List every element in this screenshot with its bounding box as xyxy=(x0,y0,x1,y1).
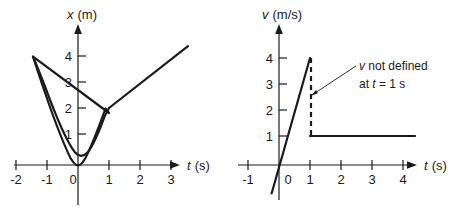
x-tick-label: 2 xyxy=(337,172,344,187)
x-axis-unit: (s) xyxy=(432,158,447,173)
annotation-leader xyxy=(311,66,357,96)
x-tick-label: -1 xyxy=(242,172,254,187)
position-x-tick-labels: -2 -1 0 1 2 3 xyxy=(10,172,174,187)
position-x-axis-label: t(s) xyxy=(187,158,210,173)
x-tick-label-origin: 0 xyxy=(69,172,76,187)
velocity-x-axis-label: t(s) xyxy=(424,158,447,173)
velocity-y-tick-labels: 1 2 3 4 xyxy=(266,51,273,144)
x-tick-label: 1 xyxy=(105,172,112,187)
x-tick-label: 2 xyxy=(136,172,143,187)
y-tick-label: 2 xyxy=(266,103,273,118)
y-tick-label: 1 xyxy=(266,129,273,144)
y-tick-label: 4 xyxy=(266,51,273,66)
y-axis-unit: (m) xyxy=(78,7,98,22)
y-axis-arrowhead xyxy=(275,24,283,34)
y-tick-label: 3 xyxy=(266,77,273,92)
velocity-x-axis xyxy=(238,161,417,169)
y-axis-arrowhead xyxy=(74,24,82,34)
position-linear-segment xyxy=(109,46,188,108)
x-tick-label: 1 xyxy=(306,172,313,187)
x-tick-label: -1 xyxy=(41,172,53,187)
y-tick-label: 2 xyxy=(65,101,72,116)
physics-figure-two-graphs: -2 -1 0 1 2 3 1 2 3 4 x(m) t(s) xyxy=(0,0,451,219)
velocity-x-tick-labels: -1 0 1 2 3 4 xyxy=(242,172,406,187)
v-not-defined-annotation-line2: at t = 1 s xyxy=(359,77,405,91)
x-tick-label: 3 xyxy=(167,172,174,187)
velocity-y-ticks xyxy=(279,58,287,136)
position-y-tick-labels: 1 2 3 4 xyxy=(65,49,72,142)
x-tick-label-origin: 0 xyxy=(284,172,291,187)
position-x-axis xyxy=(14,161,180,169)
position-y-axis-label: x(m) xyxy=(66,7,97,22)
x-tick-label: -2 xyxy=(10,172,22,187)
position-vs-time-chart: -2 -1 0 1 2 3 1 2 3 4 x(m) t(s) xyxy=(0,0,226,219)
velocity-y-axis-label: v(m/s) xyxy=(262,7,302,22)
position-chart-svg: -2 -1 0 1 2 3 1 2 3 4 x(m) t(s) xyxy=(0,0,226,219)
v-not-defined-annotation-line1: v not defined xyxy=(359,59,428,73)
y-axis-unit: (m/s) xyxy=(273,7,303,22)
x-axis-symbol: t xyxy=(187,158,192,173)
x-axis-arrowhead xyxy=(407,161,417,169)
x-axis-unit: (s) xyxy=(195,158,210,173)
x-tick-label: 4 xyxy=(399,172,406,187)
velocity-chart-svg: -1 0 1 2 3 4 1 2 3 4 v(m/s) t(s) xyxy=(226,0,451,219)
velocity-vs-time-chart: -1 0 1 2 3 4 1 2 3 4 v(m/s) t(s) xyxy=(226,0,451,219)
y-axis-symbol: v xyxy=(262,7,270,22)
x-tick-label: 3 xyxy=(368,172,375,187)
x-axis-symbol: t xyxy=(424,158,429,173)
y-tick-label: 4 xyxy=(65,49,72,64)
y-axis-symbol: x xyxy=(66,7,74,22)
